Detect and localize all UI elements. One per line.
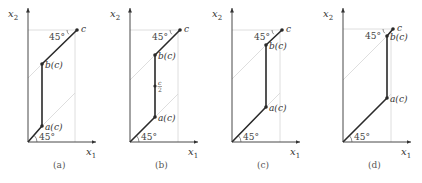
point-b-label: b(c) [158, 51, 176, 61]
angle-arc-top [67, 30, 69, 34]
guide-diagonal-upper [28, 64, 42, 78]
angle-arc-top [383, 29, 385, 33]
angle-label-origin: 45° [39, 132, 55, 142]
x-axis-label-subscript: 1 [194, 152, 198, 160]
panel: x2x1a(c)b(c)cc245°45°(b) [110, 8, 198, 170]
point-a [40, 124, 44, 128]
angle-label-top: 45° [365, 31, 381, 41]
point-c [178, 28, 182, 32]
panel-caption: (b) [155, 160, 168, 170]
figure: x2x1a(c)b(c)c45°45°(a) x2x1a(c)b(c)cc245… [0, 0, 422, 183]
x-axis-label-subscript: 1 [92, 152, 96, 160]
y-axis-label-subscript: 2 [329, 14, 333, 22]
y-axis-label: x2 [110, 8, 120, 22]
panel-caption: (d) [368, 160, 381, 170]
angle-arc-origin [34, 136, 37, 142]
point-b [264, 43, 268, 47]
angle-arc-top [272, 30, 274, 34]
panel: x2x1a(c)b(c)c45°45°(c) [212, 8, 300, 170]
midpoint-label-numerator: c [158, 79, 162, 86]
y-axis-label: x2 [212, 8, 222, 22]
point-midpoint [153, 84, 156, 87]
y-axis-label: x2 [8, 8, 18, 22]
angle-arc-origin [136, 136, 139, 142]
point-c-label: c [184, 24, 189, 34]
point-b [385, 34, 389, 38]
point-a-label: a(c) [158, 113, 176, 123]
x-axis-label: x1 [86, 146, 96, 160]
point-b-label: b(c) [45, 60, 63, 70]
midpoint-label-denominator: 2 [158, 86, 162, 93]
guide-diagonal-upper [130, 55, 155, 80]
x-axis-label-subscript: 1 [407, 152, 411, 160]
y-axis-label-subscript: 2 [14, 14, 18, 22]
panel: x2x1a(c)b(c)c45°45°(a) [8, 8, 96, 170]
angle-arc-origin [238, 136, 241, 142]
point-a-label: a(c) [45, 122, 63, 132]
point-c [280, 28, 284, 32]
point-a [264, 105, 268, 109]
point-c [391, 27, 395, 31]
point-b [153, 53, 157, 57]
angle-arc-origin [349, 136, 352, 142]
panel-caption: (c) [257, 160, 269, 170]
x-axis-label: x1 [290, 146, 300, 160]
angle-label-top: 45° [152, 32, 168, 42]
guide-diagonal-upper [232, 45, 266, 79]
y-axis-label-subscript: 2 [116, 14, 120, 22]
x-axis-label-subscript: 1 [296, 152, 300, 160]
angle-arc-top [170, 30, 172, 34]
panel-caption: (a) [53, 160, 65, 170]
point-c-label: c [286, 24, 291, 34]
point-a-label: a(c) [390, 94, 408, 104]
path-line [343, 29, 393, 142]
angle-label-origin: 45° [354, 132, 370, 142]
point-b-label: b(c) [390, 32, 408, 42]
x-axis-label: x1 [188, 146, 198, 160]
angle-label-origin: 45° [141, 132, 157, 142]
y-axis-label: x2 [323, 8, 333, 22]
point-a [385, 96, 389, 100]
angle-label-origin: 45° [243, 132, 259, 142]
angle-label-top: 45° [254, 32, 270, 42]
point-c [75, 28, 79, 32]
point-c-label: c [397, 23, 402, 33]
point-a [153, 115, 157, 119]
y-axis-label-subscript: 2 [218, 14, 222, 22]
point-c-label: c [81, 24, 86, 34]
panel: x2x1a(c)b(c)c45°45°(d) [323, 8, 411, 170]
x-axis-label: x1 [401, 146, 411, 160]
point-b [40, 62, 44, 66]
guide-diagonal-upper [343, 36, 387, 80]
point-a-label: a(c) [269, 103, 287, 113]
point-b-label: b(c) [269, 41, 287, 51]
angle-label-top: 45° [49, 32, 65, 42]
